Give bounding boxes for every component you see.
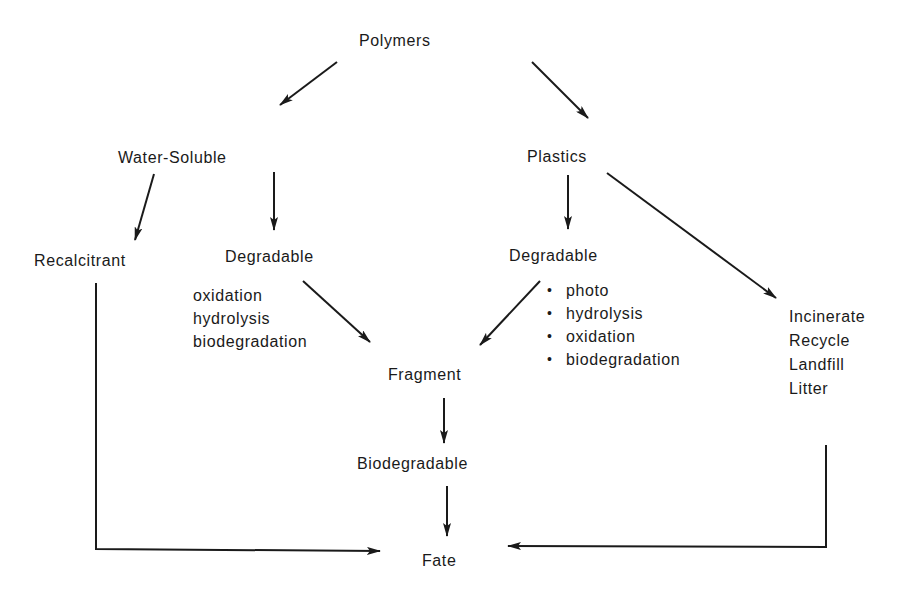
arrow-ws-degradable-to-fragment <box>303 281 370 342</box>
disposal-litter: Litter <box>789 377 865 401</box>
arrow-water-soluble-to-recalcitrant <box>135 174 154 240</box>
node-pl-degradable: Degradable <box>509 248 598 264</box>
bullet-icon: • <box>547 279 553 302</box>
ws-mode-biodegradation: biodegradation <box>193 330 307 353</box>
bullet-icon: • <box>547 348 553 371</box>
node-recalcitrant: Recalcitrant <box>34 253 126 269</box>
pl-mode-label: hydrolysis <box>566 305 643 322</box>
node-water-soluble: Water-Soluble <box>118 150 227 166</box>
ws-mode-oxidation: oxidation <box>193 284 307 307</box>
bullet-icon: • <box>547 302 553 325</box>
ws-mode-hydrolysis: hydrolysis <box>193 307 307 330</box>
node-fate: Fate <box>422 553 456 569</box>
disposal-incinerate: Incinerate <box>789 305 865 329</box>
pl-mode-label: oxidation <box>566 328 635 345</box>
arrow-pl-degradable-to-fragment <box>480 281 540 345</box>
pl-mode-label: biodegradation <box>566 351 680 368</box>
node-ws-degradable: Degradable <box>225 249 314 265</box>
polymer-fate-diagram: Polymers Water-Soluble Plastics Recalcit… <box>0 0 912 597</box>
arrow-polymers-to-water-soluble <box>280 62 337 105</box>
pl-mode-hydrolysis: •hydrolysis <box>547 302 680 325</box>
plastics-disposal-options: Incinerate Recycle Landfill Litter <box>789 305 865 401</box>
node-biodegradable: Biodegradable <box>357 456 468 472</box>
disposal-landfill: Landfill <box>789 353 865 377</box>
node-polymers: Polymers <box>359 33 430 49</box>
pl-mode-label: photo <box>566 282 609 299</box>
pl-degradation-modes: •photo •hydrolysis •oxidation •biodegrad… <box>547 279 680 371</box>
pl-mode-biodegradation: •biodegradation <box>547 348 680 371</box>
node-fragment: Fragment <box>388 367 461 383</box>
disposal-recycle: Recycle <box>789 329 865 353</box>
ws-degradation-modes: oxidation hydrolysis biodegradation <box>193 284 307 353</box>
node-plastics: Plastics <box>527 149 587 165</box>
diagram-edges <box>0 0 912 597</box>
pl-mode-photo: •photo <box>547 279 680 302</box>
arrow-disposal-to-fate <box>508 445 826 547</box>
bullet-icon: • <box>547 325 553 348</box>
pl-mode-oxidation: •oxidation <box>547 325 680 348</box>
arrow-polymers-to-plastics <box>532 62 588 118</box>
